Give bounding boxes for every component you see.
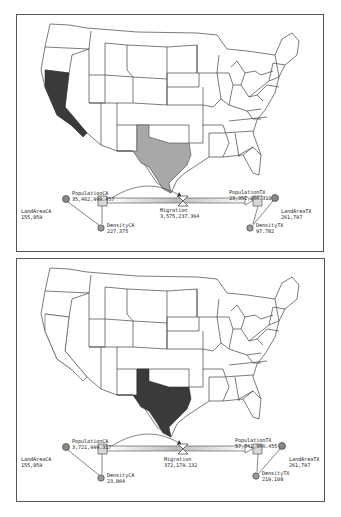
population-tx-label: PopulationTX57,341,966.455	[235, 438, 277, 449]
land-area-ca-label: LandAreaCA155,959	[21, 457, 51, 468]
panel-before: LandAreaCA155,959 PopulationCA35,462,999…	[16, 14, 324, 252]
land-area-tx-icon	[272, 195, 279, 202]
population-ca-label: PopulationCA35,462,999.457	[72, 191, 114, 202]
state-california	[45, 70, 87, 137]
land-area-ca-icon	[63, 444, 70, 451]
migration-label: Migration3,575,237.364	[160, 208, 199, 219]
density-tx-icon	[253, 473, 259, 479]
migration-label: Migration372,179.132	[164, 457, 197, 468]
land-area-ca-label: LandAreaCA155,959	[21, 209, 51, 220]
density-ca-icon	[98, 225, 104, 231]
density-tx-icon	[247, 225, 253, 231]
density-ca-label: DensityCA23.864	[107, 473, 134, 484]
density-ca-icon	[98, 475, 104, 481]
panel-after: LandAreaCA155,959 PopulationCA3,721,999.…	[16, 258, 325, 502]
density-tx-label: DensityTX219.108	[262, 471, 289, 482]
land-area-tx-label: LandAreaTX261,797	[281, 209, 311, 220]
land-area-tx-label: LandAreaTX261,797	[289, 457, 319, 468]
population-ca-label: PopulationCA3,721,999.317	[72, 439, 111, 450]
state-texas	[117, 369, 191, 437]
density-ca-label: DensityCA227.375	[107, 223, 134, 234]
state-texas	[117, 125, 191, 193]
land-area-tx-icon	[279, 443, 286, 450]
land-area-ca-icon	[63, 196, 70, 203]
density-tx-label: DensityTX97.782	[256, 223, 283, 234]
state-california	[45, 314, 87, 381]
population-tx-label: PopulationTX23,351,966.310	[229, 190, 271, 201]
